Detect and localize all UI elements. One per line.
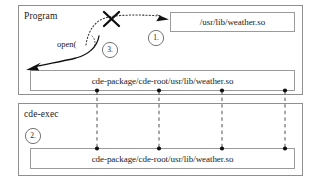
program-redirect-box-outline bbox=[31, 71, 295, 91]
diagram-vector-layer bbox=[0, 0, 318, 180]
step-3-circle bbox=[102, 42, 117, 57]
blocked-x-marker bbox=[104, 12, 119, 26]
correspondence-lines bbox=[97, 91, 285, 148]
original-path-box-outline bbox=[171, 13, 295, 32]
cdeexec-path-box-outline bbox=[31, 149, 295, 169]
program-container-label: Program bbox=[24, 12, 57, 22]
open-syscall-label: open( bbox=[57, 40, 76, 49]
step-2-circle bbox=[25, 128, 40, 143]
cde-exec-container-label: cde-exec bbox=[24, 110, 59, 120]
step-1-circle bbox=[148, 30, 163, 45]
diagram-canvas: Program cde-exec /usr/lib/weather.so cde… bbox=[0, 0, 318, 180]
